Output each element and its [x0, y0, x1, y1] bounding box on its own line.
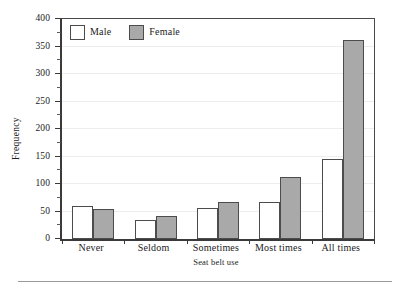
page-divider-rule — [18, 281, 392, 282]
bar-chart-figure: 050100150200250300350400 Frequency Never… — [0, 0, 404, 289]
x-axis-tick-label: Never — [60, 242, 122, 254]
x-axis-tick-label: Seldom — [122, 242, 184, 254]
legend-entry-male: Male — [70, 25, 111, 40]
y-axis-tick-label: 0 — [22, 233, 50, 243]
y-axis-title-text: Frequency — [11, 146, 21, 160]
x-axis-title-text: Seat belt use — [193, 257, 239, 267]
male-swatch-icon — [70, 25, 85, 40]
legend-label: Female — [149, 27, 180, 37]
y-axis-tick-label: 200 — [22, 123, 50, 133]
y-axis-tick-label: 50 — [22, 206, 50, 216]
y-axis-tick-label: 100 — [22, 178, 50, 188]
y-axis-title: Frequency — [9, 82, 19, 96]
y-axis-tick-label: 400 — [22, 13, 50, 23]
x-axis-tick-label: Most times — [247, 242, 309, 254]
y-axis-tick-label: 150 — [22, 151, 50, 161]
x-axis-tick-labels: NeverSeldomSometimesMost timesAll times — [60, 242, 372, 256]
y-axis-tick-label: 300 — [22, 68, 50, 78]
legend-entry-female: Female — [129, 25, 180, 40]
x-axis-tick-label: All times — [310, 242, 372, 254]
x-axis-tick-label: Sometimes — [185, 242, 247, 254]
chart-legend: MaleFemale — [70, 22, 180, 42]
legend-label: Male — [90, 27, 111, 37]
y-axis-tick-label: 250 — [22, 96, 50, 106]
x-axis-title: Seat belt use — [60, 257, 372, 267]
y-axis-tick-label: 350 — [22, 41, 50, 51]
female-swatch-icon — [129, 25, 144, 40]
